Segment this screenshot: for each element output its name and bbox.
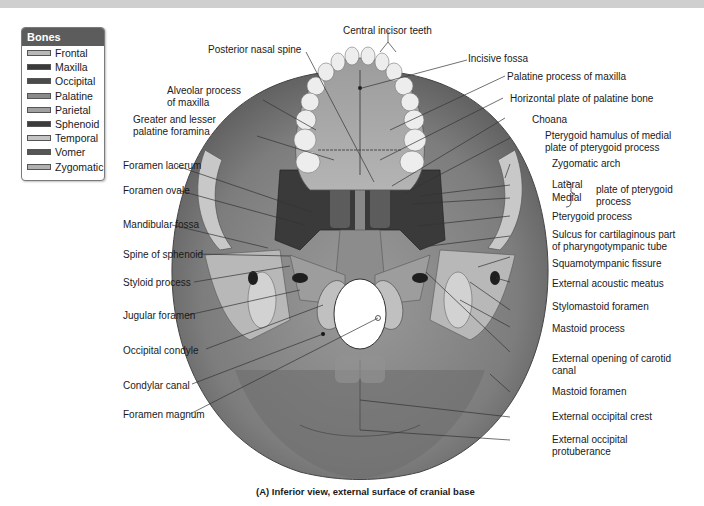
label-lateral: Lateral xyxy=(552,179,583,191)
label-greater-lesser-2: palatine foramina xyxy=(133,126,210,138)
label-sulcus-1: Sulcus for cartilaginous part xyxy=(552,229,675,241)
swatch-palatine xyxy=(27,93,51,99)
label-styloid-process: Styloid process xyxy=(123,277,191,289)
legend-label: Vomer xyxy=(55,146,85,158)
label-plate-of-pterygoid-2: process xyxy=(596,196,631,208)
swatch-frontal xyxy=(27,50,51,56)
label-mastoid-process: Mastoid process xyxy=(552,323,625,335)
label-alveolar-process-1: Alveolar process xyxy=(167,85,241,97)
label-squamotympanic-fissure: Squamotympanic fissure xyxy=(552,258,662,270)
label-pterygoid-hamulus-2: plate of pterygoid process xyxy=(545,142,660,154)
swatch-vomer xyxy=(27,149,51,155)
label-condylar-canal: Condylar canal xyxy=(123,380,190,392)
label-central-incisor-teeth: Central incisor teeth xyxy=(343,25,432,37)
swatch-maxilla xyxy=(27,64,51,70)
label-medial: Medial xyxy=(552,192,581,204)
legend-item-parietal: Parietal xyxy=(22,103,104,117)
swatch-temporal xyxy=(27,135,51,141)
legend-item-occipital: Occipital xyxy=(22,74,104,88)
label-external-opening-carotid-1: External opening of carotid xyxy=(552,353,671,365)
figure-caption: (A) Inferior view, external surface of c… xyxy=(256,486,475,497)
swatch-sphenoid xyxy=(27,121,51,127)
legend-label: Zygomatic xyxy=(55,161,103,173)
legend-item-temporal: Temporal xyxy=(22,131,104,145)
swatch-zygomatic xyxy=(27,164,51,170)
legend-item-frontal: Frontal xyxy=(22,46,104,60)
label-external-occipital-protuberance-2: protuberance xyxy=(552,446,611,458)
label-pterygoid-process: Pterygoid process xyxy=(552,211,632,223)
label-greater-lesser-1: Greater and lesser xyxy=(133,114,216,126)
label-foramen-lacerum: Foramen lacerum xyxy=(123,160,201,172)
legend-item-zygomatic: Zygomatic xyxy=(22,160,104,174)
legend-label: Maxilla xyxy=(55,61,88,73)
legend-label: Palatine xyxy=(55,90,93,102)
legend-label: Occipital xyxy=(55,75,95,87)
label-choana: Choana xyxy=(532,114,567,126)
legend-label: Frontal xyxy=(55,47,88,59)
legend-label: Temporal xyxy=(55,132,98,144)
label-alveolar-process-2: of maxilla xyxy=(167,97,209,109)
label-external-opening-carotid-2: canal xyxy=(552,365,576,377)
label-plate-of-pterygoid-1: plate of pterygoid xyxy=(596,184,673,196)
label-sulcus-2: of pharyngotympanic tube xyxy=(552,241,667,253)
legend-label: Sphenoid xyxy=(55,118,99,130)
label-spine-of-sphenoid: Spine of sphenoid xyxy=(123,249,203,261)
label-mastoid-foramen: Mastoid foramen xyxy=(552,386,626,398)
label-external-acoustic-meatus: External acoustic meatus xyxy=(552,278,664,290)
label-external-occipital-crest: External occipital crest xyxy=(552,411,652,423)
label-palatine-process-of-maxilla: Palatine process of maxilla xyxy=(507,71,626,83)
label-horizontal-plate: Horizontal plate of palatine bone xyxy=(510,93,653,105)
legend-label: Parietal xyxy=(55,104,91,116)
label-foramen-ovale: Foramen ovale xyxy=(123,185,190,197)
legend-item-maxilla: Maxilla xyxy=(22,60,104,74)
legend-title: Bones xyxy=(22,28,104,46)
legend-item-sphenoid: Sphenoid xyxy=(22,117,104,131)
swatch-occipital xyxy=(27,78,51,84)
legend-item-palatine: Palatine xyxy=(22,89,104,103)
legend-item-vomer: Vomer xyxy=(22,145,104,159)
label-stylomastoid-foramen: Stylomastoid foramen xyxy=(552,301,649,313)
label-posterior-nasal-spine: Posterior nasal spine xyxy=(208,44,301,56)
swatch-parietal xyxy=(27,107,51,113)
bones-legend: Bones Frontal Maxilla Occipital Palatine… xyxy=(21,27,105,181)
label-pterygoid-hamulus-1: Pterygoid hamulus of medial xyxy=(545,130,671,142)
label-foramen-magnum: Foramen magnum xyxy=(123,409,205,421)
label-occipital-condyle: Occipital condyle xyxy=(123,345,199,357)
label-mandibular-fossa: Mandibular fossa xyxy=(123,219,199,231)
label-zygomatic-arch: Zygomatic arch xyxy=(552,158,620,170)
label-incisive-fossa: Incisive fossa xyxy=(468,53,528,65)
label-external-occipital-protuberance-1: External occipital xyxy=(552,434,628,446)
label-jugular-foramen: Jugular foramen xyxy=(123,310,195,322)
